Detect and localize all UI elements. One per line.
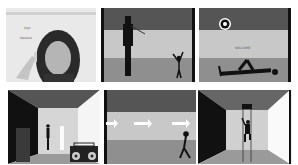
scene-3: [199, 8, 291, 82]
annotation-1: Sign: [24, 26, 31, 30]
panel-room-boombox: [8, 90, 100, 164]
target-icon: [219, 18, 231, 30]
panel-corridor-arrows: [104, 90, 196, 164]
panel-webcam-photo: Sign Gesture: [6, 8, 96, 82]
boombox-icon: [70, 143, 98, 162]
header-strip: [6, 12, 96, 15]
wall-label: WELCOME: [235, 46, 250, 50]
scene-2: [101, 8, 195, 82]
scene-5: [104, 90, 196, 164]
panel-shadow-figure: [101, 8, 195, 82]
glowing-figure: [60, 126, 64, 150]
panel-lying-figure: WELCOME: [199, 8, 291, 82]
annotation-2: Gesture: [20, 36, 32, 40]
scene-4: [8, 90, 100, 164]
panel-ladder-climb: [198, 90, 292, 164]
person-photo: [6, 8, 96, 82]
scene-6: [198, 90, 292, 164]
ceiling-hatch: [242, 104, 252, 109]
